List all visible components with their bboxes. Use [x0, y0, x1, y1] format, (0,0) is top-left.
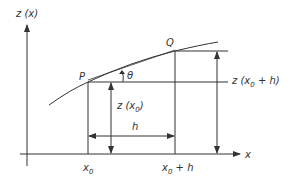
z-x0-label: z (x0) [116, 100, 144, 114]
h-label: h [132, 121, 138, 132]
point-p-label: P [79, 71, 86, 82]
theta-label: θ [127, 70, 133, 81]
z-x0h-label: z (x0 + h) [231, 75, 280, 89]
point-q-label: Q [166, 37, 174, 48]
derivative-diagram: z (x) x P Q θ z (x0) z (x0 + h) h x0 x0 … [0, 0, 290, 180]
diagram-svg: z (x) x P Q θ z (x0) z (x0 + h) h x0 x0 … [0, 0, 290, 180]
tick-x0h-label: x0 + h [161, 162, 193, 176]
theta-arrowhead [119, 70, 125, 74]
tick-x0-label: x0 [82, 162, 94, 176]
y-axis-label: z (x) [15, 8, 38, 19]
x-axis-label: x [244, 149, 251, 160]
